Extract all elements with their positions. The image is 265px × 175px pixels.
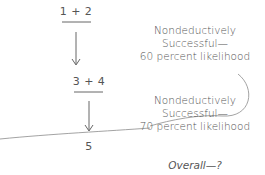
step-2-label: 3 + 4	[69, 75, 109, 88]
annotation-1-line2: Successful—	[130, 37, 260, 50]
annotation-1-line1: Nondeductively	[130, 24, 260, 37]
overall-label: Overall—?	[130, 159, 260, 172]
connector-line	[0, 128, 150, 139]
annotation-2-line1: Nondeductively	[130, 94, 260, 107]
annotation-2-line3: 70 percent likelihood	[130, 120, 260, 133]
annotation-2-line2: Successful—	[130, 107, 260, 120]
annotation-1: Nondeductively Successful— 60 percent li…	[130, 24, 260, 63]
annotation-1-line3: 60 percent likelihood	[130, 50, 260, 63]
step-3-label: 5	[69, 140, 109, 153]
step-1-label: 1 + 2	[56, 5, 96, 18]
annotation-2: Nondeductively Successful— 70 percent li…	[130, 94, 260, 133]
